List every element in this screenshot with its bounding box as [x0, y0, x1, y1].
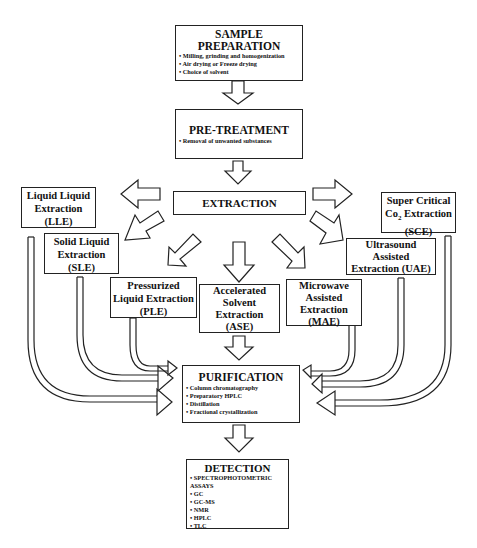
- uae-label-3: Extraction (UAE): [347, 263, 435, 275]
- sce-label-co: Co: [385, 208, 398, 219]
- list-item: Removal of unwanted substances: [179, 137, 302, 145]
- uae-box: Ultrasound Assisted Extraction (UAE): [346, 238, 436, 275]
- down-arrow-icon: [224, 242, 254, 282]
- sce-label-2: Co2 Extraction: [382, 207, 455, 225]
- sle-box: Solid Liquid Extraction (SLE): [44, 233, 119, 274]
- purification-list: Column chromatography Preparatory HPLC D…: [183, 384, 299, 416]
- list-item: Milling, grinding and homogenization: [179, 52, 302, 60]
- ple-label-1: Pressurized: [111, 279, 196, 292]
- ple-label-3: (PLE): [111, 305, 196, 318]
- mae-label-3: Extraction: [287, 304, 361, 316]
- ple-box: Pressurized Liquid Extraction (PLE): [110, 277, 197, 318]
- mae-label-4: (MAE): [287, 316, 361, 328]
- lle-label-3: (LLE): [22, 215, 95, 228]
- list-item: Distillation: [186, 400, 299, 408]
- uae-label-1: Ultrasound: [347, 239, 435, 251]
- diagonal-arrow-icon: [125, 211, 164, 240]
- diagonal-arrow-icon: [168, 234, 201, 266]
- sle-label-2: Extraction: [45, 248, 118, 261]
- purification-title: PURIFICATION: [183, 371, 299, 384]
- pre-treatment-list: Removal of unwanted substances: [176, 137, 302, 145]
- down-arrow-icon: [225, 336, 253, 360]
- extraction-box: EXTRACTION: [173, 191, 306, 215]
- sample-preparation-title-2: PREPARATION: [176, 40, 302, 52]
- sce-label-1: Super Critical: [382, 194, 455, 207]
- detection-title: DETECTION: [187, 462, 288, 474]
- mae-box: Microwave Assisted Extraction (MAE): [286, 279, 362, 326]
- ase-label-4: (ASE): [200, 321, 279, 333]
- sce-box: Super Critical Co2 Extraction (SCE): [381, 192, 456, 233]
- list-item: Choice of solvent: [179, 68, 302, 76]
- list-item: SPECTROPHOTOMETRIC ASSAYS: [190, 474, 288, 490]
- list-item: Preparatory HPLC: [186, 392, 299, 400]
- list-item: Column chromatography: [186, 384, 299, 392]
- mae-label-1: Microwave: [287, 280, 361, 292]
- down-arrow-icon: [225, 425, 253, 452]
- list-item: Fractional crystallization: [186, 408, 299, 416]
- uae-label-2: Assisted: [347, 251, 435, 263]
- diagonal-arrow-icon: [310, 211, 343, 244]
- list-item: TLC: [190, 522, 288, 530]
- right-arrow-icon: [313, 180, 352, 208]
- sle-label-3: (SLE): [45, 261, 118, 274]
- ase-label-3: Extraction: [200, 309, 279, 321]
- ase-label-2: Solvent: [200, 297, 279, 309]
- sle-label-1: Solid Liquid: [45, 235, 118, 248]
- detection-box: DETECTION SPECTROPHOTOMETRIC ASSAYS GC G…: [186, 459, 289, 529]
- down-arrow-icon: [225, 161, 251, 184]
- pre-treatment-title: PRE-TREATMENT: [176, 124, 302, 137]
- sample-preparation-title-1: SAMPLE: [176, 28, 302, 40]
- list-item: NMR: [190, 506, 288, 514]
- lle-label-2: Extraction: [22, 202, 95, 215]
- list-item: GC: [190, 490, 288, 498]
- lle-label-1: Liquid Liquid: [22, 189, 95, 202]
- list-item: GC-MS: [190, 498, 288, 506]
- list-item: Air drying or Freeze drying: [179, 60, 302, 68]
- sce-label-3: (SCE): [382, 225, 455, 238]
- mae-label-2: Assisted: [287, 292, 361, 304]
- sample-preparation-box: SAMPLE PREPARATION Milling, grinding and…: [175, 25, 303, 81]
- sample-preparation-list: Milling, grinding and homogenization Air…: [176, 52, 302, 76]
- down-arrow-icon: [223, 81, 253, 104]
- ase-box: Accelerated Solvent Extraction (ASE): [199, 284, 280, 333]
- list-item: HPLC: [190, 514, 288, 522]
- ase-label-1: Accelerated: [200, 285, 279, 297]
- diagonal-arrow-icon: [272, 234, 305, 268]
- sce-label-extraction: Extraction: [401, 208, 451, 219]
- ple-label-2: Liquid Extraction: [111, 292, 196, 305]
- lle-box: Liquid Liquid Extraction (LLE): [21, 187, 96, 228]
- extraction-title: EXTRACTION: [202, 197, 277, 209]
- purification-box: PURIFICATION Column chromatography Prepa…: [182, 365, 300, 423]
- left-arrow-icon: [121, 180, 160, 208]
- detection-list: SPECTROPHOTOMETRIC ASSAYS GC GC-MS NMR H…: [187, 474, 288, 530]
- pre-treatment-box: PRE-TREATMENT Removal of unwanted substa…: [175, 109, 303, 159]
